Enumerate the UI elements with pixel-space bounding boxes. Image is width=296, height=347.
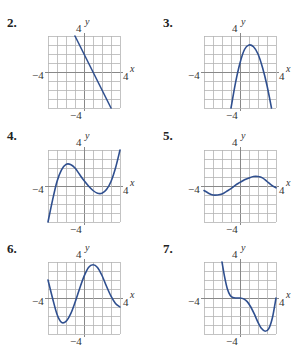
y-bottom-tick: −4 — [226, 336, 238, 347]
exercise-number: 3. — [163, 15, 173, 31]
y-axis-label: y — [85, 17, 89, 27]
exercise-number: 2. — [7, 15, 17, 31]
y-top-tick: 4 — [76, 249, 82, 260]
coordinate-grid — [204, 36, 276, 108]
x-left-tick: −4 — [32, 296, 44, 307]
coordinate-grid — [48, 262, 120, 334]
x-left-tick: −4 — [188, 296, 200, 307]
x-axis-label: x — [286, 64, 290, 74]
y-top-tick: 4 — [232, 23, 238, 34]
y-top-tick: 4 — [232, 137, 238, 148]
coordinate-grid — [48, 36, 120, 108]
x-axis-label: x — [130, 64, 134, 74]
x-right-tick: 4 — [123, 297, 129, 308]
y-axis-label: y — [85, 131, 89, 141]
x-right-tick: 4 — [123, 185, 129, 196]
exercise-number: 4. — [7, 128, 17, 144]
x-axis-label: x — [130, 290, 134, 300]
y-bottom-tick: −4 — [226, 110, 238, 121]
y-top-tick: 4 — [232, 249, 238, 260]
x-left-tick: −4 — [188, 184, 200, 195]
x-right-tick: 4 — [279, 297, 285, 308]
x-axis-label: x — [286, 290, 290, 300]
y-axis-label: y — [241, 17, 245, 27]
y-axis-label: y — [241, 243, 245, 253]
y-top-tick: 4 — [76, 137, 82, 148]
y-bottom-tick: −4 — [70, 110, 82, 121]
y-bottom-tick: −4 — [226, 224, 238, 235]
x-axis-label: x — [286, 178, 290, 188]
y-bottom-tick: −4 — [70, 224, 82, 235]
coordinate-grid — [204, 262, 276, 334]
x-left-tick: −4 — [32, 70, 44, 81]
exercise-number: 7. — [163, 241, 173, 257]
x-left-tick: −4 — [188, 70, 200, 81]
exercise-number: 6. — [7, 241, 17, 257]
y-axis-label: y — [241, 131, 245, 141]
coordinate-grid — [204, 150, 276, 222]
exercise-number: 5. — [163, 128, 173, 144]
x-axis-label: x — [130, 178, 134, 188]
coordinate-grid — [48, 150, 120, 222]
y-axis-label: y — [85, 243, 89, 253]
x-right-tick: 4 — [123, 71, 129, 82]
x-right-tick: 4 — [279, 185, 285, 196]
x-right-tick: 4 — [279, 71, 285, 82]
y-top-tick: 4 — [76, 23, 82, 34]
x-left-tick: −4 — [32, 184, 44, 195]
y-bottom-tick: −4 — [70, 336, 82, 347]
